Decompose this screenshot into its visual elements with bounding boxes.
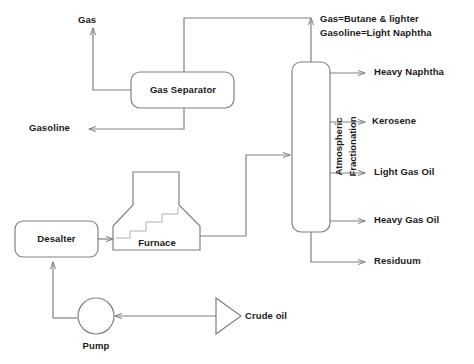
flow-lines-svg xyxy=(0,0,474,364)
line-furnace-to-column xyxy=(246,155,290,236)
stream-label-residuum: Residuum xyxy=(374,255,421,268)
stream-label-heavy-gas-oil: Heavy Gas Oil xyxy=(374,214,439,227)
crude-oil-shape xyxy=(216,298,241,334)
pump-shape xyxy=(78,298,114,334)
process-flow-diagram: Gas Separator Atmospheric Fractionation … xyxy=(0,0,474,364)
gas-separator-label: Gas Separator xyxy=(147,84,219,97)
furnace-label: Furnace xyxy=(128,237,186,250)
pump-label: Pump xyxy=(72,340,120,353)
stream-label-light-gas-oil: Light Gas Oil xyxy=(374,166,434,179)
line-residuum xyxy=(311,232,365,262)
atmospheric-column-label-line2: Fractionation xyxy=(347,82,358,212)
line-overhead-to-separator xyxy=(184,18,311,72)
atmospheric-column-shape xyxy=(292,62,330,232)
stream-label-gasoline: Gasoline xyxy=(29,122,70,135)
crude-oil-label: Crude oil xyxy=(245,310,287,323)
atmospheric-column-label-line1: Atmospheric xyxy=(333,82,344,212)
stream-label-heavy-naphtha: Heavy Naphtha xyxy=(374,66,444,79)
line-gas-outlet xyxy=(93,28,131,90)
note-gas-definition: Gas=Butane & lighter xyxy=(320,13,419,26)
note-gasoline-definition: Gasoline=Light Naphtha xyxy=(320,27,432,40)
desalter-label: Desalter xyxy=(27,233,86,246)
stream-label-gas: Gas xyxy=(78,14,96,27)
stream-label-kerosene: Kerosene xyxy=(372,115,416,128)
line-gasoline-outlet xyxy=(89,108,184,129)
